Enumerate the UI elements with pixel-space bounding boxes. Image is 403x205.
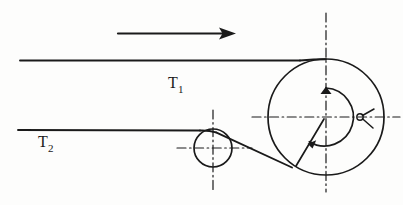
tension-label-upper-subscript: 1	[178, 83, 184, 95]
motion-direction-arrow	[118, 28, 236, 40]
angle-tick-mark	[357, 109, 374, 128]
tension-label-upper: T 1	[168, 74, 184, 95]
angle-tick-leg-upper	[363, 109, 375, 116]
tension-label-upper-base: T	[168, 74, 178, 91]
angle-tick-leg-lower	[363, 119, 374, 128]
tension-label-lower-base: T	[38, 133, 48, 150]
belt-drive-canvas: T 1 T 2	[0, 0, 403, 205]
tension-label-lower-subscript: 2	[48, 142, 54, 154]
radius-leader-line	[296, 119, 324, 166]
belt-drive-diagram: T 1 T 2	[0, 0, 403, 205]
diagonal-belt-span	[216, 132, 292, 167]
tension-label-lower: T 2	[38, 133, 54, 154]
lower-belt-span	[18, 130, 200, 131]
